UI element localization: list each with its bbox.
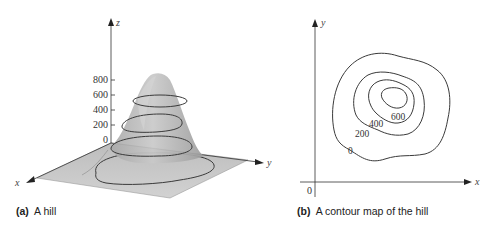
- z-tick-600: 600: [93, 89, 108, 100]
- caption-a: (a) A hill: [16, 205, 56, 217]
- y-axis-arrow-icon: [312, 19, 318, 27]
- contour-600: [381, 88, 407, 108]
- contour-label-200: 200: [355, 129, 370, 139]
- x-axis-arrow-icon: [26, 176, 35, 183]
- caption-a-text: A hill: [34, 205, 56, 217]
- x-axis-label: x: [474, 176, 480, 187]
- caption-b: (b) A contour map of the hill: [297, 205, 428, 217]
- z-axis-label: z: [115, 17, 120, 28]
- z-axis-arrow-icon: [108, 18, 114, 26]
- caption-b-tag: (b): [297, 205, 310, 217]
- y-axis-label: y: [266, 157, 272, 168]
- z-ticks: [111, 80, 115, 125]
- z-tick-0: 0: [103, 134, 108, 145]
- z-tick-400: 400: [93, 104, 108, 115]
- contour-label-0: 0: [348, 146, 353, 156]
- x-axis-label: x: [14, 177, 20, 188]
- y-axis-label: y: [320, 17, 326, 28]
- hill-surface-plot: x y z 800 600 400 200 0: [0, 0, 290, 227]
- z-tick-200: 200: [93, 119, 108, 130]
- contour-label-400: 400: [369, 119, 384, 129]
- z-tick-800: 800: [93, 74, 108, 85]
- origin-label: 0: [307, 185, 312, 196]
- contour-map-plot: y x 0 600 400 200 0: [290, 0, 489, 227]
- y-axis-arrow-icon: [255, 159, 264, 165]
- caption-b-text: A contour map of the hill: [316, 205, 429, 217]
- caption-a-tag: (a): [16, 205, 29, 217]
- contour-label-600: 600: [391, 112, 406, 122]
- panel-b-contour-map: y x 0 600 400 200 0 (b) A contour map of…: [290, 0, 489, 227]
- x-axis-arrow-icon: [464, 179, 472, 185]
- panel-a-hill: x y z 800 600 400 200 0 (a): [0, 0, 290, 227]
